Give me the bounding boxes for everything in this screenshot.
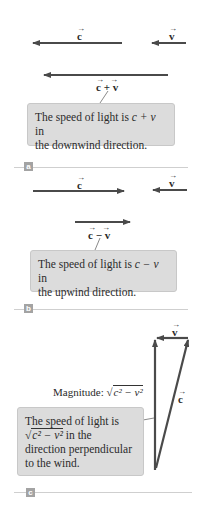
callout-downwind: The speed of light is c + v in the downw… [27, 103, 175, 146]
panel-tag-a: a [24, 162, 33, 171]
vector-label-v-c: →v [172, 323, 180, 338]
panel-tag-b: b [24, 304, 33, 313]
vector-label-diff: → →c − v [88, 226, 110, 241]
divider-b [14, 309, 188, 310]
vector-label-sum: → →c + v [96, 78, 118, 93]
divider-c [14, 492, 192, 493]
callout-upwind: The speed of light is c − v in the upwin… [30, 250, 177, 292]
magnitude-label: Magnitude: √c² − v² [53, 386, 143, 398]
callout-pointer-c [143, 418, 154, 420]
vector-label-v-b: →v [169, 174, 177, 189]
vector-label-c-c: →c [178, 390, 186, 405]
divider-a [14, 167, 188, 168]
vector-label-c-b: →c [77, 176, 85, 191]
callout-perpendicular: The speed of light is √c² − v² in the di… [17, 407, 144, 476]
vector-label-v-a: →v [169, 27, 177, 42]
vector-label-c-a: →c [77, 27, 85, 42]
panel-tag-c: c [26, 488, 35, 497]
